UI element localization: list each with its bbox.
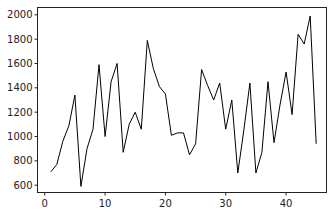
y-tick-label: 1200 [7,107,32,118]
y-tick-label: 600 [13,180,32,191]
y-tick-label: 2000 [7,9,32,20]
x-tick-label: 20 [159,198,172,209]
y-tick-label: 1800 [7,34,32,45]
y-axis: 600800100012001400160018002000 [7,9,37,190]
y-tick-label: 1000 [7,131,32,142]
plot-frame [38,8,327,193]
x-axis: 010203040 [42,193,293,209]
x-tick-label: 10 [99,198,112,209]
x-tick-label: 0 [42,198,48,209]
line-chart: 600800100012001400160018002000 010203040 [0,0,336,213]
y-tick-label: 1400 [7,82,32,93]
y-tick-label: 1600 [7,58,32,69]
x-tick-label: 40 [280,198,293,209]
y-tick-label: 800 [13,155,32,166]
x-tick-label: 30 [219,198,232,209]
data-line [51,16,316,186]
